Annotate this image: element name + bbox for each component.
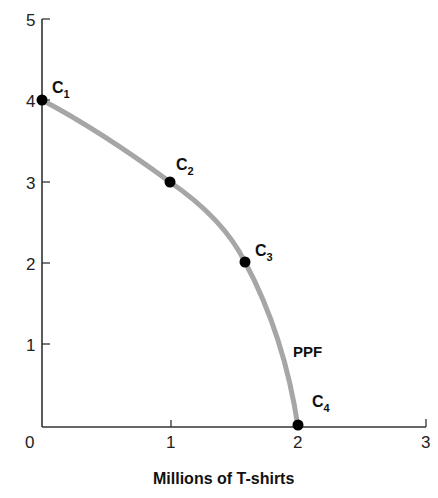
- point-c3: [240, 257, 251, 268]
- y-tick-label-2: 2: [26, 255, 35, 274]
- origin-label: 0: [25, 433, 34, 452]
- x-tick-labels: 0 1 2 3: [25, 433, 430, 452]
- x-tick-label-3: 3: [421, 433, 430, 452]
- point-c1: [37, 95, 48, 106]
- ppf-curve: [42, 100, 298, 427]
- y-tick-label-3: 3: [26, 174, 35, 193]
- point-c4: [293, 420, 304, 431]
- ppf-label: PPF: [293, 343, 322, 360]
- label-c2: C2: [176, 156, 194, 177]
- ppf-chart: 5 4 3 2 1 0 1 2 3 C1 C2 C3 C4 PPF Millio…: [0, 0, 438, 498]
- points: [37, 95, 304, 431]
- label-c4: C4: [312, 393, 331, 414]
- label-c3: C3: [255, 242, 273, 263]
- x-tick-label-1: 1: [166, 433, 175, 452]
- x-tick-label-2: 2: [293, 433, 302, 452]
- y-tick-label-1: 1: [26, 336, 35, 355]
- label-c1: C1: [52, 79, 70, 100]
- y-tick-label-4: 4: [26, 92, 35, 111]
- x-axis-title: Millions of T-shirts: [153, 470, 294, 487]
- y-tick-labels: 5 4 3 2 1: [26, 11, 35, 355]
- y-tick-label-5: 5: [26, 11, 35, 30]
- axes: [42, 19, 426, 427]
- point-c2: [165, 177, 176, 188]
